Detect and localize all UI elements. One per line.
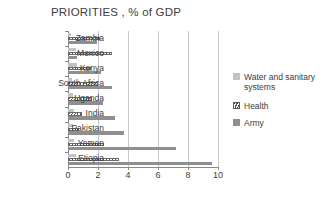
x-tick-label: 0 (65, 170, 70, 180)
bar (68, 112, 82, 115)
y-tick-mark (65, 61, 68, 62)
category-label: Etiopia (78, 154, 104, 163)
bar (68, 139, 74, 142)
category-label: South Africa (58, 79, 104, 88)
y-tick-mark (65, 76, 68, 77)
category-label: India (86, 109, 104, 118)
x-tick-label: 4 (125, 170, 130, 180)
category-label: Mexico (77, 49, 104, 58)
bar (68, 109, 74, 112)
y-tick-mark (65, 137, 68, 138)
y-tick-mark (65, 152, 68, 153)
gridline (218, 31, 219, 167)
legend-label: Health (244, 101, 269, 111)
x-tick-label: 6 (155, 170, 160, 180)
legend-swatch-icon (233, 73, 240, 80)
category-label: Zambia (76, 34, 104, 43)
x-axis-line (68, 167, 218, 168)
x-tick-mark (68, 167, 69, 170)
bar-chart: PRIORITIES , % of GDP ZambiaMexicoKenyaS… (0, 0, 326, 198)
category-label: Yemen (78, 139, 104, 148)
legend-label: Water and sanitary systems (244, 72, 325, 92)
y-tick-mark (65, 122, 68, 123)
bar (68, 63, 77, 66)
legend-item[interactable]: Water and sanitary systems (233, 72, 325, 92)
x-tick-mark (98, 167, 99, 170)
y-tick-mark (65, 31, 68, 32)
category-label: Uganda (74, 94, 104, 103)
x-tick-mark (128, 167, 129, 170)
x-tick-mark (188, 167, 189, 170)
bar (68, 48, 76, 51)
legend-item[interactable]: Health (233, 101, 269, 111)
chart-title: PRIORITIES , % of GDP (0, 6, 232, 18)
legend-item[interactable]: Army (233, 118, 264, 128)
category-label: Pakistan (71, 124, 104, 133)
x-tick-label: 10 (213, 170, 223, 180)
bar (68, 56, 77, 59)
bar (68, 93, 73, 96)
legend-swatch-icon (233, 102, 240, 109)
category-label: Kenya (80, 64, 104, 73)
y-tick-mark (65, 46, 68, 47)
x-tick-label: 2 (95, 170, 100, 180)
bar (68, 154, 76, 157)
legend-label: Army (244, 118, 264, 128)
y-tick-mark (65, 107, 68, 108)
x-tick-mark (158, 167, 159, 170)
y-tick-mark (65, 91, 68, 92)
x-tick-label: 8 (185, 170, 190, 180)
bar (68, 33, 71, 36)
legend-swatch-icon (233, 119, 240, 126)
x-tick-mark (218, 167, 219, 170)
